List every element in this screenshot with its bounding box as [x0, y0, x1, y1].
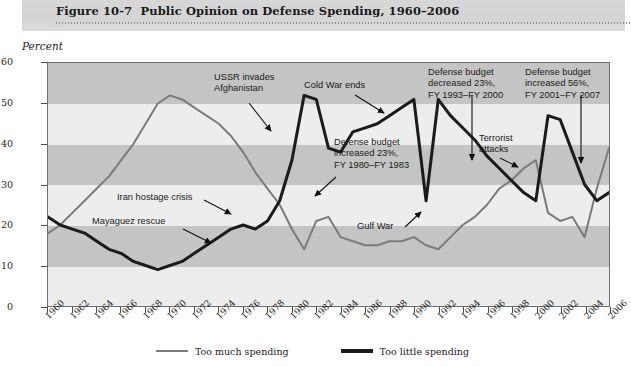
y-tick-mark-50	[41, 103, 47, 104]
y-tick-label-60: 60	[0, 56, 13, 67]
y-tick-mark-20	[41, 225, 47, 226]
legend-swatch-too-little-icon	[341, 349, 373, 353]
y-tick-label-10: 10	[0, 260, 13, 271]
legend-swatch-too-much-icon	[156, 350, 188, 352]
legend-label-too-little: Too little spending	[380, 346, 469, 357]
plot-area	[47, 62, 610, 307]
series-line-too-much	[48, 95, 609, 249]
y-tick-mark-30	[41, 185, 47, 186]
y-tick-mark-60	[41, 62, 47, 63]
y-tick-mark-10	[41, 266, 47, 267]
chart-lines	[48, 63, 609, 306]
figure-title-bar: Figure 10-7 Public Opinion on Defense Sp…	[22, 0, 625, 31]
legend-item-too-much: Too much spending	[156, 346, 289, 357]
page-title: Figure 10-7 Public Opinion on Defense Sp…	[56, 4, 459, 18]
y-tick-label-30: 30	[0, 179, 13, 190]
y-tick-label-20: 20	[0, 219, 13, 230]
figure-title: Public Opinion on Defense Spending, 1960…	[140, 4, 459, 18]
series-line-too-little	[48, 95, 609, 269]
y-tick-label-50: 50	[0, 97, 13, 108]
title-divider	[56, 22, 631, 24]
figure-number: Figure 10-7	[56, 4, 132, 18]
legend-item-too-little: Too little spending	[341, 346, 469, 357]
y-tick-label-0: 0	[0, 301, 13, 312]
y-tick-label-40: 40	[0, 138, 13, 149]
y-tick-mark-40	[41, 144, 47, 145]
legend-label-too-much: Too much spending	[195, 346, 289, 357]
chart-legend: Too much spending Too little spending	[0, 341, 625, 361]
y-axis-title: Percent	[22, 40, 63, 52]
